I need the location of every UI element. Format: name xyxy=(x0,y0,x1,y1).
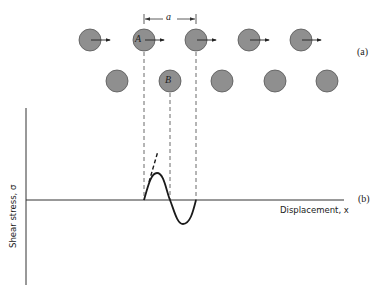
atom xyxy=(211,70,233,92)
panel-a-label: (a) xyxy=(357,46,368,57)
atom xyxy=(316,70,338,92)
atom-B-label: B xyxy=(165,74,171,85)
panel-b-label: (b) xyxy=(358,193,370,204)
top-atom-row xyxy=(79,29,312,51)
spacing-label: a xyxy=(164,11,173,22)
shear-stress-diagram: a A B (a) (b) Displacement, x Shear stre… xyxy=(0,0,392,295)
atom xyxy=(106,70,128,92)
x-axis-label: Displacement, x xyxy=(280,205,349,215)
diagram-svg xyxy=(0,0,392,295)
atom xyxy=(264,70,286,92)
axes xyxy=(26,108,344,285)
y-axis-label: Shear stress, σ xyxy=(8,185,18,248)
initial-slope-tangent xyxy=(149,151,158,182)
atom-A-label: A xyxy=(135,33,141,44)
bottom-atom-row xyxy=(106,70,338,92)
